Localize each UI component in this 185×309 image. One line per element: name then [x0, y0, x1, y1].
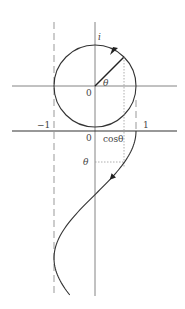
- label-origin-bottom: 0: [86, 133, 92, 143]
- label-pos-one: 1: [143, 120, 149, 130]
- label-angle: θ: [103, 78, 109, 88]
- label-imag-axis: i: [98, 32, 101, 42]
- label-origin-top: 0: [86, 88, 92, 98]
- diagram-canvas: i θ 0 −1 1 0 cosθ θ: [0, 0, 185, 309]
- label-cos: cosθ: [103, 134, 124, 144]
- label-neg-one: −1: [37, 120, 50, 130]
- radius-vector: [95, 57, 124, 86]
- label-theta-axis: θ: [83, 157, 89, 167]
